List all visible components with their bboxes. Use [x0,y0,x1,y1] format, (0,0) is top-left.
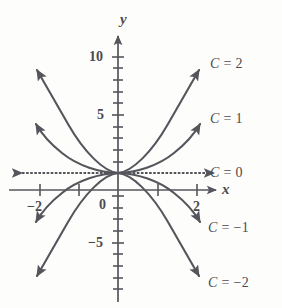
x-tick-label-2: 2 [193,200,200,214]
y-tick-label-5: 5 [97,108,104,122]
y-tick-label-0: 0 [99,198,106,212]
x-tick-label-neg2: −2 [27,200,42,214]
x-axis [9,184,216,196]
y-tick-label-10: 10 [89,50,103,64]
curve-label-c-2: C = 2 [210,57,243,71]
curve-label-c-0: C = 0 [210,166,243,180]
plot-canvas [0,0,282,308]
parabola-family-figure: y x 10 5 0 −5 −2 2 C = 2 C = 1 C = 0 C =… [0,0,282,308]
y-axis-label: y [120,12,127,27]
curve-label-c-1: C = 1 [210,112,243,126]
curve-label-c-minus-1: C = −1 [208,221,249,235]
curve-label-c-minus-2: C = −2 [208,276,249,290]
x-axis-label: x [222,182,230,197]
y-tick-label-neg5: −5 [88,236,103,250]
y-axis [112,36,124,302]
